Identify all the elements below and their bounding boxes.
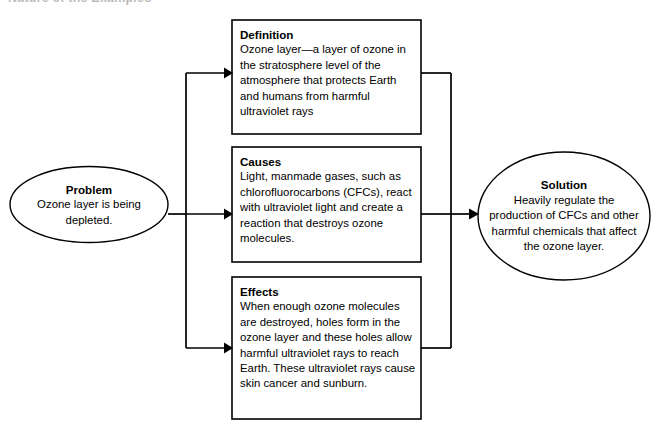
- problem-body: Ozone layer is being depleted.: [22, 197, 156, 228]
- effects-body: When enough ozone molecules are destroye…: [240, 299, 416, 391]
- definition-node: Definition Ozone layer—a layer of ozone …: [240, 27, 416, 119]
- definition-heading: Definition: [240, 27, 416, 42]
- effects-node: Effects When enough ozone molecules are …: [240, 284, 416, 392]
- causes-node: Causes Light, manmade gases, such as chl…: [240, 154, 416, 246]
- effects-heading: Effects: [240, 284, 416, 299]
- causes-body: Light, manmade gases, such as chlorofluo…: [240, 169, 416, 246]
- problem-heading: Problem: [66, 182, 112, 197]
- solution-heading: Solution: [541, 177, 587, 192]
- causes-heading: Causes: [240, 154, 416, 169]
- problem-node: Problem Ozone layer is being depleted.: [22, 170, 156, 240]
- solution-body: Heavily regulate the production of CFCs …: [486, 193, 642, 255]
- definition-body: Ozone layer—a layer of ozone in the stra…: [240, 42, 416, 119]
- solution-node: Solution Heavily regulate the production…: [486, 160, 642, 272]
- diagram-page: Nature of the Examples Problem Ozone lay…: [0, 0, 661, 432]
